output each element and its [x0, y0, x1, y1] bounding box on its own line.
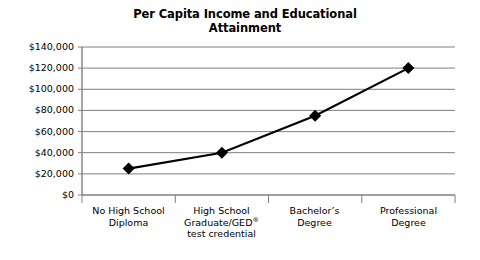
x-tick-label-line: Professional: [380, 205, 437, 216]
x-tick-label-line: Degree: [391, 217, 426, 228]
y-tick-label: $100,000: [8, 84, 74, 94]
x-tick-label-line: Diploma: [109, 217, 149, 228]
y-tick-label: $80,000: [8, 105, 74, 115]
x-tick-label-line: High School: [193, 205, 249, 216]
x-tick-label-high-school-graduate: High School Graduate/GED® test credentia…: [175, 205, 268, 240]
chart-container: Per Capita Income and Educational Attain…: [0, 0, 480, 260]
x-tick-label-line: Degree: [297, 217, 332, 228]
x-tick-label-no-high-school-diploma: No High School Diploma: [82, 205, 175, 228]
x-tick-label-line: Bachelor’s: [290, 205, 340, 216]
x-tick-label-line: test credential: [187, 228, 256, 239]
x-tick-label-bachelors-degree: Bachelor’s Degree: [268, 205, 361, 228]
y-tick-label: $0: [8, 190, 74, 200]
x-tick-label-line: Graduate/GED®: [184, 217, 259, 228]
y-tick-label: $120,000: [8, 63, 74, 73]
y-tick-label: $140,000: [8, 42, 74, 52]
registered-trademark-icon: ®: [252, 215, 259, 223]
y-tick-label: $60,000: [8, 127, 74, 137]
x-axis-category-ticks: [82, 195, 455, 203]
y-tick-label: $40,000: [8, 148, 74, 158]
x-tick-label-professional-degree: Professional Degree: [362, 205, 455, 228]
plot-background: [82, 47, 455, 195]
x-tick-label-line: No High School: [92, 205, 164, 216]
y-tick-label: $20,000: [8, 169, 74, 179]
